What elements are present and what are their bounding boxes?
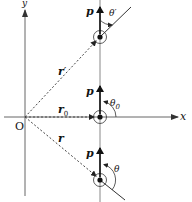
momentum-label-middle: p (86, 86, 94, 97)
position-vector-label-lower: r (58, 133, 64, 144)
origin-label: O (15, 121, 24, 132)
angle-label-middle: θ0 (110, 99, 120, 111)
momentum-label-lower: p (86, 148, 94, 159)
momentum-label-upper: p (86, 6, 94, 17)
angle-label-upper: θ′ (109, 9, 116, 18)
particle-lower (94, 148, 126, 200)
y-axis-label: y (22, 0, 27, 8)
prime-mark: ′ (114, 8, 116, 18)
angle-arc-upper (100, 20, 112, 25)
position-vector-label-middle: r0 (58, 104, 68, 118)
x-axis-label: x (180, 111, 186, 122)
angle-label-lower: θ (114, 165, 119, 174)
subscript: 0 (64, 110, 68, 118)
prime-mark: ′ (64, 65, 67, 78)
diagram-canvas (0, 0, 192, 202)
subscript: 0 (115, 103, 119, 111)
position-vector-label-upper: r′ (58, 66, 66, 77)
